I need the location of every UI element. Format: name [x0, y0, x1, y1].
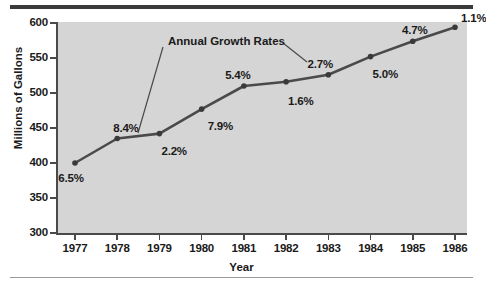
- data-point-marker: [72, 160, 78, 166]
- data-point-marker: [368, 54, 374, 60]
- data-point-marker: [157, 131, 163, 137]
- growth-rate-label: 6.5%: [58, 172, 83, 184]
- growth-rate-label: 1.1%: [461, 12, 486, 24]
- data-point-marker: [283, 79, 289, 85]
- growth-rate-label: 1.6%: [288, 95, 313, 107]
- growth-rate-label: 5.4%: [225, 69, 250, 81]
- annotation-leader-line: [138, 47, 163, 133]
- annual-growth-rates-annotation: Annual Growth Rates: [168, 35, 285, 47]
- growth-rate-label: 5.0%: [373, 68, 398, 80]
- annotation-leader-line: [283, 43, 307, 62]
- data-point-marker: [326, 72, 332, 78]
- growth-rate-label: 4.7%: [402, 24, 427, 36]
- growth-rate-label: 7.9%: [208, 120, 233, 132]
- data-point-marker: [114, 136, 120, 142]
- data-point-marker: [452, 24, 458, 30]
- growth-rate-label: 2.2%: [161, 145, 186, 157]
- series-polyline: [75, 27, 455, 163]
- growth-rate-label: 2.7%: [308, 58, 333, 70]
- data-point-marker: [241, 83, 247, 89]
- growth-rate-label: 8.4%: [113, 122, 138, 134]
- data-point-marker: [410, 38, 416, 44]
- data-point-marker: [199, 106, 205, 112]
